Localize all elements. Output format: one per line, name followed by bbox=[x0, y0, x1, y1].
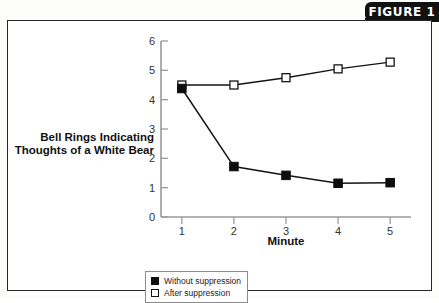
legend-item-without-suppression: Without suppression bbox=[151, 275, 241, 287]
x-tick-label: 4 bbox=[335, 225, 341, 237]
y-axis: 0123456 bbox=[149, 35, 168, 223]
filled-square-marker bbox=[334, 179, 343, 188]
x-tick-label: 1 bbox=[179, 225, 185, 237]
open-square-marker bbox=[334, 65, 342, 73]
chart-legend: Without suppression After suppression bbox=[145, 271, 248, 303]
figure-tab-label: FIGURE 1 bbox=[368, 6, 435, 18]
y-tick-label: 1 bbox=[149, 182, 155, 194]
open-square-marker bbox=[386, 58, 394, 66]
y-tick-label: 5 bbox=[149, 64, 155, 76]
x-axis-ticks bbox=[182, 217, 390, 224]
line-chart: 0123456 12345 Minute Bell Rings Indicati… bbox=[8, 21, 433, 292]
figure-tab: FIGURE 1 bbox=[365, 2, 439, 21]
y-axis-label-line2: Thoughts of a White Bear bbox=[15, 144, 155, 156]
filled-square-icon bbox=[151, 277, 159, 285]
filled-square-marker bbox=[230, 162, 239, 171]
x-tick-label: 5 bbox=[387, 225, 393, 237]
series-without-suppression bbox=[178, 84, 395, 187]
open-square-marker bbox=[282, 74, 290, 82]
y-axis-label-line1: Bell Rings Indicating bbox=[40, 131, 154, 143]
y-axis-ticks bbox=[161, 41, 168, 217]
y-axis-tick-labels: 0123456 bbox=[149, 35, 155, 223]
series-after-suppression bbox=[178, 58, 394, 89]
chart-series-layer bbox=[178, 58, 395, 187]
open-square-icon bbox=[151, 289, 159, 297]
filled-square-marker bbox=[178, 84, 187, 93]
figure-frame: 0123456 12345 Minute Bell Rings Indicati… bbox=[7, 20, 432, 291]
x-tick-label: 2 bbox=[231, 225, 237, 237]
y-tick-label: 0 bbox=[149, 211, 155, 223]
x-axis: 12345 bbox=[161, 217, 411, 237]
legend-label: Without suppression bbox=[164, 277, 241, 286]
legend-label: After suppression bbox=[164, 289, 230, 298]
x-axis-title: Minute bbox=[267, 235, 304, 247]
filled-square-marker bbox=[282, 171, 291, 180]
legend-item-after-suppression: After suppression bbox=[151, 287, 241, 299]
chart-plot-area: 0123456 12345 Minute Bell Rings Indicati… bbox=[8, 21, 433, 292]
filled-square-marker bbox=[386, 178, 395, 187]
y-tick-label: 4 bbox=[149, 94, 155, 106]
series-line bbox=[182, 89, 390, 184]
open-square-marker bbox=[230, 81, 238, 89]
y-tick-label: 6 bbox=[149, 35, 155, 47]
